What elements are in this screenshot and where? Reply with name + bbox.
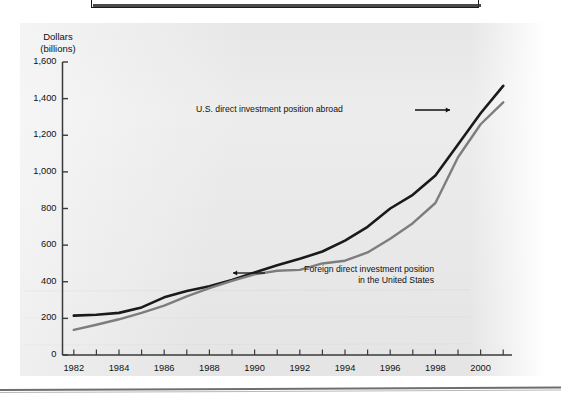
y-tick-label: 1,200 — [23, 129, 57, 139]
x-axis-ticks — [74, 350, 503, 356]
y-tick-label: 800 — [23, 203, 57, 213]
annotation-us-direct-investment-abroad: U.S. direct investment position abroad — [196, 104, 343, 115]
x-tick-label: 1986 — [144, 363, 184, 373]
y-tick-label: 600 — [23, 239, 57, 249]
x-tick-label: 1990 — [235, 363, 275, 373]
chart-plot-area — [0, 0, 561, 404]
y-tick-label: 1,600 — [23, 56, 57, 66]
line-chart: Dollars (billions) 02004006008001,0001,2… — [0, 0, 561, 404]
x-tick-label: 1998 — [415, 363, 455, 373]
x-tick-label: 1996 — [370, 363, 410, 373]
x-tick-label: 1994 — [325, 363, 365, 373]
y-axis-ticks — [63, 62, 69, 355]
x-tick-label: 1982 — [54, 363, 94, 373]
y-tick-label: 1,400 — [23, 93, 57, 103]
y-tick-label: 0 — [23, 349, 57, 359]
x-tick-label: 1984 — [99, 363, 139, 373]
x-tick-label: 1992 — [280, 363, 320, 373]
series-line-foreign-in-us — [74, 102, 503, 330]
x-tick-label: 2000 — [461, 363, 501, 373]
x-tick-label: 1988 — [189, 363, 229, 373]
scan-smudge-lines — [24, 290, 470, 345]
y-tick-label: 400 — [23, 276, 57, 286]
data-series-group — [74, 86, 503, 330]
y-tick-label: 1,000 — [23, 166, 57, 176]
y-tick-label: 200 — [23, 312, 57, 322]
annotation-foreign-direct-investment-in-us: Foreign direct investment position in th… — [236, 264, 434, 285]
